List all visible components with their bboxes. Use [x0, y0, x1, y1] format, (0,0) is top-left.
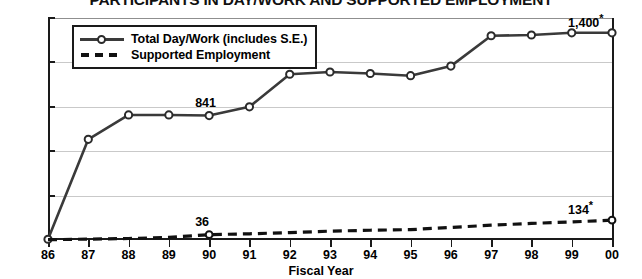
data-point-marker	[206, 112, 213, 119]
data-label-134: 134*	[568, 200, 593, 217]
legend-item-supported-employment: Supported Employment	[80, 47, 307, 63]
data-label-1400: 1,400*	[568, 13, 604, 30]
data-point-marker	[85, 136, 92, 143]
data-point-marker	[568, 29, 575, 36]
data-point-marker	[206, 231, 213, 238]
series-line-supported-employment	[48, 220, 612, 240]
data-point-marker	[407, 72, 414, 79]
data-point-marker	[326, 68, 333, 75]
dashed-line-swatch-icon	[80, 48, 124, 62]
chart-container: PARTICIPANTS IN DAY/WORK AND SUPPORTED E…	[0, 0, 642, 279]
legend-label: Total Day/Work (includes S.E.)	[131, 32, 307, 46]
legend-label: Supported Employment	[131, 48, 270, 62]
chart-legend: Total Day/Work (includes S.E.) Supported…	[72, 25, 317, 69]
data-point-marker	[447, 63, 454, 70]
data-point-marker	[609, 217, 616, 224]
data-label-841: 841	[195, 97, 216, 110]
data-point-marker	[608, 29, 615, 36]
legend-item-total-day-work: Total Day/Work (includes S.E.)	[80, 31, 307, 47]
data-point-marker	[488, 32, 495, 39]
solid-line-swatch-icon	[80, 32, 124, 46]
data-point-marker	[125, 111, 132, 118]
data-point-marker	[367, 70, 374, 77]
data-label-36: 36	[195, 216, 209, 229]
data-point-marker	[528, 31, 535, 38]
data-point-marker	[286, 71, 293, 78]
data-point-marker	[246, 103, 253, 110]
data-point-marker	[165, 111, 172, 118]
